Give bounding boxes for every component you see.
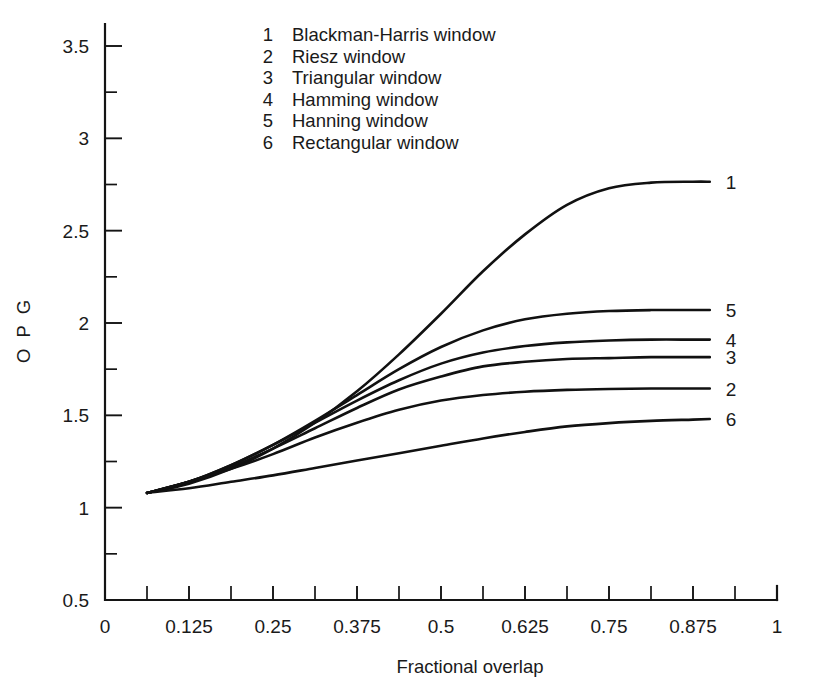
y-tick-label: 3 — [78, 128, 89, 149]
curve-2 — [147, 389, 710, 493]
x-tick-label: 0.5 — [428, 616, 454, 637]
legend: 1Blackman-Harris window2Riesz window3Tri… — [263, 24, 496, 153]
legend-label-6: Rectangular window — [292, 132, 459, 153]
curve-3 — [147, 357, 710, 493]
curve-end-labels: 154326 — [726, 172, 737, 430]
x-axis-tick-labels: 00.1250.250.3750.50.6250.750.8751 — [100, 616, 783, 637]
y-axis-title: O P G — [13, 297, 34, 363]
x-tick-label: 1 — [772, 616, 783, 637]
y-axis-ticks — [105, 46, 122, 554]
legend-label-4: Hamming window — [292, 89, 439, 110]
legend-number-6: 6 — [263, 132, 273, 153]
chart-figure: 0.511.522.533.5 00.1250.250.3750.50.6250… — [0, 0, 829, 689]
y-tick-label: 3.5 — [63, 36, 89, 57]
legend-number-4: 4 — [263, 89, 273, 110]
x-tick-label: 0.125 — [165, 616, 213, 637]
x-axis-title: Fractional overlap — [396, 656, 543, 677]
y-tick-label: 1 — [78, 498, 89, 519]
legend-label-3: Triangular window — [292, 67, 442, 88]
legend-label-1: Blackman-Harris window — [292, 24, 496, 45]
legend-number-1: 1 — [263, 24, 273, 45]
opg-vs-fractional-overlap-chart: 0.511.522.533.5 00.1250.250.3750.50.6250… — [0, 0, 829, 689]
y-tick-label: 2.5 — [63, 221, 89, 242]
x-tick-label: 0.25 — [255, 616, 292, 637]
legend-label-5: Hanning window — [292, 110, 428, 131]
curve-end-label-6: 6 — [726, 409, 737, 430]
x-tick-label: 0.75 — [591, 616, 628, 637]
curve-end-label-3: 3 — [726, 347, 737, 368]
curve-end-label-5: 5 — [726, 300, 737, 321]
y-tick-label: 1.5 — [63, 405, 89, 426]
x-tick-label: 0.875 — [669, 616, 717, 637]
data-curves — [147, 182, 710, 493]
legend-number-2: 2 — [263, 46, 273, 67]
curve-end-label-2: 2 — [726, 379, 737, 400]
x-tick-label: 0.375 — [333, 616, 381, 637]
legend-number-3: 3 — [263, 67, 273, 88]
x-tick-label: 0.625 — [501, 616, 549, 637]
curve-6 — [147, 419, 710, 493]
legend-number-5: 5 — [263, 110, 273, 131]
legend-label-2: Riesz window — [292, 46, 406, 67]
curve-1 — [147, 182, 710, 493]
x-tick-label: 0 — [100, 616, 111, 637]
x-axis-ticks — [105, 586, 735, 600]
y-tick-label: 0.5 — [63, 590, 89, 611]
y-axis-tick-labels: 0.511.522.533.5 — [63, 36, 89, 611]
curve-end-label-1: 1 — [726, 172, 737, 193]
y-tick-label: 2 — [78, 313, 89, 334]
